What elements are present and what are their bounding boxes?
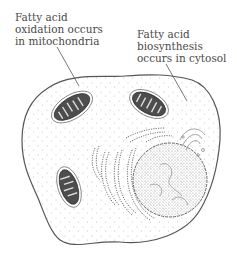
label-line: occurs in cytosol	[137, 52, 226, 64]
nucleus	[133, 143, 207, 217]
label-line: oxidation occurs	[15, 23, 103, 35]
label-fatty-acid-biosynthesis: Fatty acid biosynthesis occurs in cytoso…	[137, 28, 226, 64]
label-fatty-acid-oxidation: Fatty acid oxidation occurs in mitochond…	[15, 11, 103, 47]
label-line: biosynthesis	[137, 40, 226, 52]
label-line: Fatty acid	[15, 11, 103, 23]
label-line: in mitochondria	[15, 35, 103, 47]
label-line: Fatty acid	[137, 28, 226, 40]
